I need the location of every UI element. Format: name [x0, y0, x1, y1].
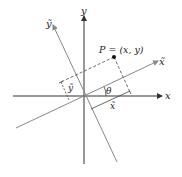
projection-to-y-tilde — [61, 57, 114, 82]
y-tilde-axis-label: ỹ — [45, 18, 52, 29]
projection-to-x-tilde — [114, 57, 129, 90]
point-label: P = (x, y) — [98, 44, 144, 55]
x-tilde-axis — [16, 61, 158, 128]
x-tilde-axis-label: x̃ — [159, 56, 165, 67]
point-p — [112, 55, 116, 59]
x-axis-label: x — [165, 90, 171, 101]
x-tilde-coord-label: x̃ — [110, 101, 115, 111]
angle-label: θ — [106, 86, 112, 96]
y-tilde-coord-label: ỹ — [67, 83, 74, 93]
x-tilde-bracket-end — [129, 90, 131, 94]
rotated-axes-diagram: x y x̃ ỹ P = (x, y) θ x̃ ỹ — [0, 0, 182, 177]
y-axis-label: y — [80, 5, 87, 16]
